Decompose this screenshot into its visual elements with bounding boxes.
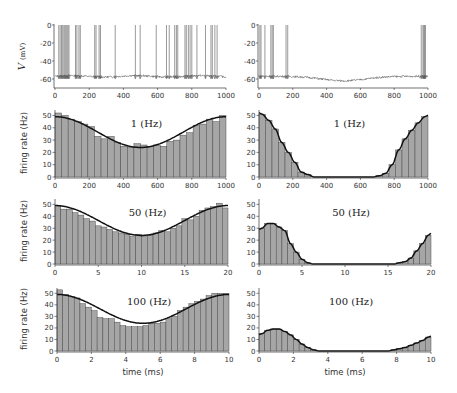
y-tick-label: 40 [247, 213, 256, 221]
histogram-bar [259, 114, 266, 177]
y-tick-label: 40 [43, 213, 52, 221]
y-tick-label: 30 [45, 313, 54, 321]
y-tick-label: 20 [43, 237, 52, 245]
x-tick-label: 600 [151, 182, 164, 190]
y-tick-label: 0 [47, 261, 51, 269]
y-axis-title: firing rate (Hz) [19, 112, 29, 174]
x-tick-label: 5 [300, 269, 304, 277]
x-tick-label: 0 [257, 182, 261, 190]
histogram-bar [218, 293, 224, 351]
histogram-bar [95, 226, 101, 264]
histogram-bar [200, 124, 207, 177]
histogram-bar [200, 299, 206, 351]
histogram-bar [272, 129, 279, 177]
histogram-bar [266, 120, 273, 177]
x-tick-label: 200 [286, 92, 299, 100]
histogram-bar [154, 145, 161, 177]
y-tick-label: 10 [247, 336, 256, 344]
histogram-bar [206, 296, 212, 351]
histogram-bar [216, 203, 222, 264]
histogram-bar [57, 290, 63, 351]
panel-rate-left-100hz: 010203040500246810100 (Hz)firing rate (H… [19, 288, 233, 377]
x-axis-title: time (ms) [122, 367, 163, 377]
histogram-bar [425, 235, 431, 264]
x-tick-label: 1000 [217, 182, 235, 190]
histogram-bar [219, 115, 226, 177]
histogram-bar [81, 124, 88, 177]
panel-rate-left-50hz: 010203040500510152050 (Hz)firing rate (H… [19, 199, 232, 277]
histogram-bar [147, 146, 154, 177]
histogram-bar [402, 139, 409, 177]
y-tick-label: 30 [247, 137, 256, 145]
x-tick-label: 2 [291, 356, 295, 364]
histogram-bar [103, 319, 109, 351]
x-tick-label: 8 [192, 356, 196, 364]
y-tick-label: 0 [251, 348, 255, 356]
x-tick-label: 10 [137, 269, 146, 277]
histogram-bar [88, 127, 95, 177]
histogram-bar [147, 235, 153, 264]
histogram-bar [132, 327, 138, 351]
y-tick-label: 20 [247, 149, 256, 157]
y-axis-title: firing rate (Hz) [19, 200, 29, 262]
histogram-bar [270, 329, 276, 351]
histogram-bar [97, 318, 103, 351]
histogram-bar [177, 311, 183, 351]
x-tick-label: 0 [53, 182, 57, 190]
panel-voltage-left: 0-20-40-6002004006008001000V (mV) [16, 22, 235, 101]
histogram-bar [213, 122, 220, 177]
x-tick-label: 200 [286, 182, 299, 190]
histogram-bar [74, 298, 80, 351]
x-tick-label: 0 [257, 269, 261, 277]
x-tick-label: 800 [388, 92, 401, 100]
y-tick-label: -20 [244, 40, 255, 48]
x-tick-label: 200 [83, 182, 96, 190]
x-tick-label: 1000 [419, 182, 437, 190]
y-tick-label: 30 [247, 225, 256, 233]
x-axis-title: time (ms) [324, 367, 365, 377]
x-tick-label: 400 [117, 92, 130, 100]
histogram-bar [63, 294, 69, 351]
histogram-bar [136, 234, 142, 264]
x-tick-label: 6 [158, 356, 163, 364]
x-tick-label: 800 [185, 92, 198, 100]
y-tick-label: 0 [251, 22, 255, 30]
y-tick-label: 50 [247, 112, 256, 120]
histogram-bar [143, 326, 149, 351]
histogram-bar [160, 146, 167, 177]
panel-rate-left-1hz: 01020304050020040060080010001 (Hz)firing… [19, 110, 235, 190]
x-tick-label: 1000 [419, 92, 437, 100]
histogram-bar [259, 334, 265, 351]
histogram-bar [222, 208, 228, 264]
histogram-bar [195, 301, 201, 351]
histogram-bar [75, 122, 82, 177]
y-tick-label: 50 [45, 290, 54, 298]
histogram-bar [193, 216, 199, 264]
x-tick-label: 200 [83, 92, 96, 100]
histogram-bar [55, 113, 62, 177]
histogram-bar [154, 323, 160, 351]
histogram-bar [259, 228, 265, 264]
histogram-bar [101, 227, 107, 264]
histogram-bar [223, 293, 229, 351]
figure: 0-20-40-6002004006008001000V (mV)0-20-40… [0, 0, 457, 393]
histogram-bar [270, 223, 276, 264]
y-tick-label: 10 [247, 161, 256, 169]
histogram-bar [159, 231, 165, 264]
x-tick-label: 4 [326, 356, 331, 364]
histogram-bar [109, 319, 115, 351]
y-tick-label: 20 [45, 324, 54, 332]
x-tick-label: 800 [388, 182, 401, 190]
x-tick-label: 8 [394, 356, 398, 364]
histogram-bar [153, 233, 159, 264]
histogram-bar [126, 327, 132, 351]
y-tick-label: 10 [43, 161, 52, 169]
x-tick-label: 20 [224, 269, 233, 277]
y-tick-label: 30 [43, 225, 52, 233]
histogram-bar [187, 133, 194, 177]
y-tick-label: 20 [247, 237, 256, 245]
x-tick-label: 600 [151, 92, 164, 100]
histogram-bar [55, 206, 61, 264]
panel-title: 1 (Hz) [334, 118, 365, 129]
histogram-bar [72, 213, 78, 264]
